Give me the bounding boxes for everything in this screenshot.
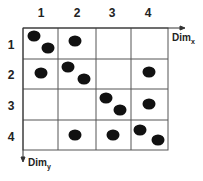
point — [143, 67, 156, 78]
point — [62, 62, 75, 73]
x-axis-arrow-icon — [180, 26, 185, 30]
point — [69, 36, 82, 47]
y-axis-arrow-icon — [21, 157, 25, 162]
point — [134, 125, 147, 136]
y-axis-label: Dimy — [28, 157, 51, 170]
grid-diagram — [0, 0, 203, 181]
point — [100, 93, 113, 104]
point — [42, 43, 55, 54]
point — [28, 31, 41, 42]
point — [35, 68, 48, 79]
point — [69, 130, 82, 141]
point — [114, 105, 127, 116]
x-axis-label: Dimx — [172, 32, 195, 45]
point — [107, 130, 120, 141]
point — [78, 74, 91, 85]
point — [152, 135, 165, 146]
point — [143, 99, 156, 110]
